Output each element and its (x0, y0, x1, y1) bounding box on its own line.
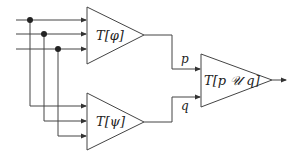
gate-top-label: T[φ] (96, 29, 124, 42)
gate-bottom-label: T[ψ] (96, 115, 125, 128)
input-wire-3-bottom (58, 49, 86, 136)
circuit-diagram: T[φ] T[ψ] T[p 𝒰 q] p q (0, 0, 299, 159)
wire-p (144, 35, 200, 69)
junction-dot-2 (41, 31, 47, 37)
gate-combine-label: T[p 𝒰 q] (204, 74, 260, 87)
signal-p-label: p (181, 53, 189, 65)
wire-q (144, 97, 200, 122)
junction-dot-3 (55, 46, 61, 52)
input-wire-2-bottom (44, 34, 86, 121)
signal-q-label: q (181, 100, 189, 112)
junction-dot-1 (27, 17, 33, 23)
